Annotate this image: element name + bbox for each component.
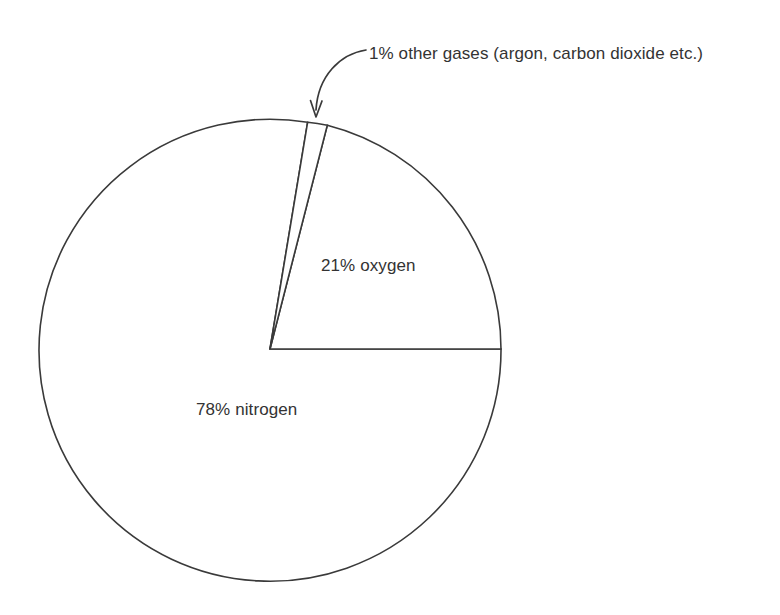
pie-chart-figure: 21% oxygen 78% nitrogen 1% other gases (… [0,0,780,615]
callout-leader-line [316,50,366,110]
pie-label-nitrogen: 78% nitrogen [196,400,297,420]
pie-label-other-gases: 1% other gases (argon, carbon dioxide et… [369,44,703,64]
pie-label-oxygen: 21% oxygen [321,256,416,276]
pie-chart-canvas [0,0,780,615]
